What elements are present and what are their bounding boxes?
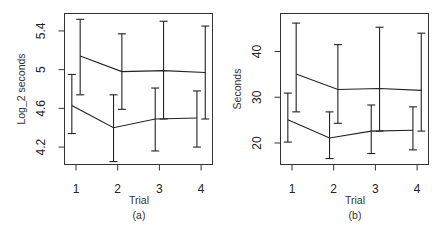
x-tick-label: 1	[73, 182, 80, 196]
y-tick-label: 5	[34, 66, 48, 73]
panel-caption: (a)	[133, 209, 146, 221]
x-axis-label: Trial	[129, 194, 149, 206]
error-bar	[376, 27, 384, 131]
y-tick-label: 5.4	[34, 22, 48, 39]
x-tick-label: 4	[198, 182, 205, 196]
y-axis-label: Seconds	[231, 69, 243, 110]
panel-b: 203040 1234 Seconds Trial (b)	[231, 14, 429, 222]
plot-area	[284, 23, 425, 158]
series-line-upper	[80, 56, 205, 72]
x-tick-label: 2	[114, 182, 121, 196]
error-bar	[326, 112, 334, 159]
x-tick-label: 4	[414, 182, 421, 196]
x-tick-label: 2	[330, 182, 337, 196]
y-axis: 4.24.655.4	[34, 22, 65, 155]
figure: 4.24.655.4 1234 Log_2 seconds Trial (a) …	[0, 0, 447, 233]
error-bar	[284, 93, 292, 142]
plot-area	[68, 19, 209, 161]
y-tick-label: 30	[250, 90, 264, 104]
y-tick-label: 20	[250, 136, 264, 150]
panel-a: 4.24.655.4 1234 Log_2 seconds Trial (a)	[15, 14, 213, 222]
error-bar	[68, 74, 76, 133]
x-tick-label: 3	[156, 182, 163, 196]
error-bar	[417, 33, 425, 131]
error-bar	[292, 23, 300, 112]
series-line-lower	[288, 120, 413, 138]
panel-caption: (b)	[349, 209, 362, 221]
series-line-upper	[296, 74, 421, 90]
series-line-lower	[72, 105, 197, 127]
x-tick-label: 3	[372, 182, 379, 196]
y-axis: 203040	[250, 44, 281, 149]
error-bar	[110, 95, 118, 162]
y-tick-label: 4.6	[34, 100, 48, 117]
error-bar	[409, 107, 417, 150]
y-tick-label: 40	[250, 44, 264, 58]
x-axis: 1234	[289, 165, 421, 197]
error-bar	[367, 105, 375, 154]
error-bar	[334, 45, 342, 124]
error-bar	[193, 91, 201, 147]
y-axis-label: Log_2 seconds	[15, 53, 27, 124]
x-axis: 1234	[73, 165, 205, 197]
y-tick-label: 4.2	[34, 138, 48, 155]
plot-frame	[65, 14, 213, 165]
x-axis-label: Trial	[345, 194, 365, 206]
x-tick-label: 1	[289, 182, 296, 196]
